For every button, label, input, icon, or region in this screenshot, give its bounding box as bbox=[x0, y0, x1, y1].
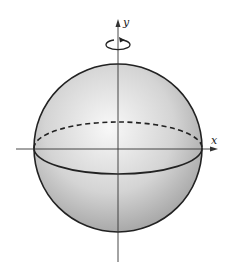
y-axis-label: y bbox=[123, 16, 129, 29]
sphere-diagram bbox=[0, 0, 230, 272]
y-axis-arrow-icon bbox=[116, 19, 121, 27]
x-axis-arrow-icon bbox=[210, 147, 218, 152]
x-axis-label: x bbox=[211, 134, 217, 147]
